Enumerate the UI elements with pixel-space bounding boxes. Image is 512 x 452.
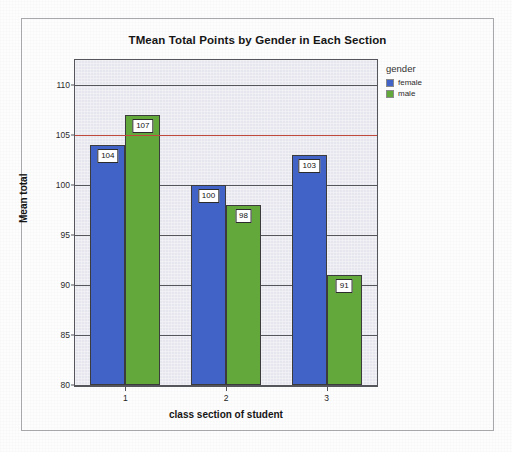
bar-female-section-3[interactable]	[292, 155, 327, 385]
x-tick-label: 1	[123, 393, 128, 403]
legend: gender femalemale	[386, 63, 422, 100]
y-tick-mark	[71, 85, 75, 86]
legend-item-male[interactable]: male	[386, 89, 422, 98]
y-tick-label: 90	[61, 280, 70, 290]
x-tick-label: 2	[224, 393, 229, 403]
x-tick-label: 3	[324, 393, 329, 403]
y-tick-label: 100	[56, 180, 70, 190]
legend-entries: femalemale	[386, 78, 422, 98]
y-tick-label: 105	[56, 130, 70, 140]
bar-male-section-2[interactable]	[226, 205, 261, 385]
y-axis-title: Mean total	[18, 174, 29, 223]
y-tick-label: 110	[56, 80, 70, 90]
x-tick-mark	[226, 386, 227, 391]
bar-male-section-1[interactable]	[125, 115, 160, 385]
chart-page: TMean Total Points by Gender in Each Sec…	[0, 0, 512, 452]
reference-line	[75, 135, 377, 136]
bar-female-section-2[interactable]	[191, 185, 226, 385]
y-tick-mark	[71, 235, 75, 236]
y-tick-mark	[71, 285, 75, 286]
legend-swatch-icon	[386, 79, 394, 87]
bar-value-label: 107	[132, 119, 153, 133]
legend-item-female[interactable]: female	[386, 78, 422, 87]
x-tick-mark	[125, 386, 126, 391]
y-tick-mark	[71, 335, 75, 336]
legend-swatch-icon	[386, 90, 394, 98]
x-axis-line: 123	[74, 386, 378, 387]
chart-frame: TMean Total Points by Gender in Each Sec…	[21, 18, 494, 431]
y-tick-label: 95	[61, 230, 70, 240]
legend-item-label: female	[398, 78, 422, 87]
bar-value-label: 104	[97, 149, 118, 163]
bar-female-section-1[interactable]	[90, 145, 125, 385]
y-gridline	[75, 85, 377, 86]
bar-value-label: 103	[298, 159, 319, 173]
y-tick-label: 85	[61, 330, 70, 340]
bar-value-label: 98	[235, 209, 252, 223]
bar-value-label: 91	[336, 279, 353, 293]
x-tick-mark	[327, 386, 328, 391]
legend-title: gender	[386, 63, 422, 74]
y-tick-label: 80	[61, 380, 70, 390]
legend-item-label: male	[398, 89, 415, 98]
bar-value-label: 100	[198, 189, 219, 203]
x-axis-title: class section of student	[74, 409, 378, 420]
plot-area: 808590951001051101041071009810391	[74, 59, 378, 386]
chart-title: TMean Total Points by Gender in Each Sec…	[22, 34, 493, 46]
y-tick-mark	[71, 185, 75, 186]
